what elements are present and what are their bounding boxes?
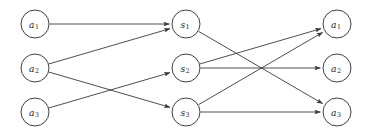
node-m1-s1[interactable]: s1 [172, 10, 200, 38]
node-m2-s2[interactable]: s2 [172, 54, 200, 82]
node-label-subscript: 2 [186, 67, 190, 75]
edge-m1-to-r3 [199, 31, 323, 103]
edge-l2-to-m3 [49, 72, 170, 107]
diagram-canvas: a1a2a3s1s2s3a1a2a3 [0, 0, 372, 136]
node-label-subscript: 3 [186, 111, 190, 119]
node-label-subscript: 3 [337, 111, 341, 119]
tripartite-graph: a1a2a3s1s2s3a1a2a3 [0, 0, 372, 136]
node-r3-a3[interactable]: a3 [323, 98, 351, 126]
node-label-subscript: 1 [337, 23, 341, 31]
edge-m2-to-r1 [200, 29, 321, 64]
node-l2-a2[interactable]: a2 [21, 54, 49, 82]
node-r1-a1[interactable]: a1 [323, 10, 351, 38]
node-label-subscript: 1 [186, 23, 190, 31]
node-l3-a3[interactable]: a3 [21, 98, 49, 126]
node-label-subscript: 3 [35, 111, 39, 119]
edge-l3-to-m2 [49, 73, 170, 108]
edge-l2-to-m1 [49, 29, 170, 64]
node-l1-a1[interactable]: a1 [21, 10, 49, 38]
node-m3-s3[interactable]: s3 [172, 98, 200, 126]
node-label-subscript: 1 [35, 23, 39, 31]
node-label-subscript: 2 [35, 67, 39, 75]
node-label-subscript: 2 [337, 67, 341, 75]
edge-m3-to-r1 [199, 32, 323, 104]
node-r2-a2[interactable]: a2 [323, 54, 351, 82]
